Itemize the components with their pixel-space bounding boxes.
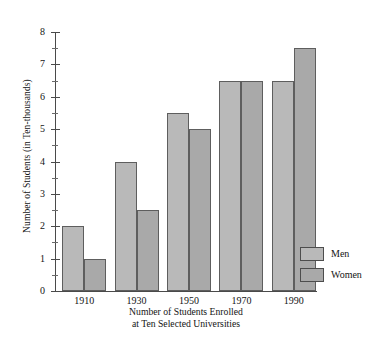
bar-women-1970 (241, 81, 263, 291)
x-axis-title: Number of Students Enrolled at Ten Selec… (55, 306, 317, 330)
y-tick-label: 5 (40, 124, 45, 134)
y-tick-minor (52, 178, 58, 179)
y-tick-major: 2 (51, 226, 60, 227)
legend-label: Women (331, 269, 362, 280)
x-tick-label: 1910 (74, 295, 94, 306)
y-tick-label: 3 (40, 189, 45, 199)
bar-women-1930 (137, 210, 159, 291)
y-tick-label: 2 (40, 221, 45, 231)
y-tick-minor (52, 48, 58, 49)
x-axis-title-line-2: at Ten Selected Universities (55, 318, 317, 330)
y-tick-major: 7 (51, 64, 60, 65)
y-tick-major: 5 (51, 129, 60, 130)
y-tick-label: 8 (40, 27, 45, 37)
x-tick-label: 1970 (231, 295, 251, 306)
x-tick-label: 1930 (127, 295, 147, 306)
bar-women-1950 (189, 129, 211, 291)
y-tick-label: 6 (40, 92, 45, 102)
bar-men-1970 (219, 81, 241, 291)
men-swatch (300, 247, 324, 261)
bar-chart-figure: Number of Students (in Ten-thousands) 01… (0, 0, 375, 350)
women-swatch (300, 268, 324, 282)
y-tick-minor (52, 81, 58, 82)
legend-item-men: Men (300, 243, 362, 264)
legend-label: Men (331, 248, 349, 259)
y-tick-major: 3 (51, 194, 60, 195)
x-tick-label: 1990 (284, 295, 304, 306)
bar-women-1910 (84, 259, 106, 291)
y-tick-minor (52, 210, 58, 211)
bar-men-1990 (272, 81, 294, 291)
x-tick-label: 1950 (179, 295, 199, 306)
bar-men-1930 (115, 162, 137, 292)
y-tick-minor (52, 242, 58, 243)
y-tick-major: 0 (51, 291, 60, 292)
y-tick-label: 1 (40, 254, 45, 264)
y-tick-major: 8 (51, 32, 60, 33)
y-axis-title: Number of Students (in Ten-thousands) (22, 56, 32, 256)
bar-men-1910 (62, 226, 84, 291)
y-tick-label: 4 (40, 157, 45, 167)
x-axis-line (55, 291, 317, 292)
y-tick-major: 4 (51, 162, 60, 163)
y-tick-major: 6 (51, 97, 60, 98)
y-tick-label: 7 (40, 59, 45, 69)
bar-men-1950 (167, 113, 189, 291)
x-axis-title-line-1: Number of Students Enrolled (55, 306, 317, 318)
y-tick-minor (52, 113, 58, 114)
y-tick-minor (52, 145, 58, 146)
y-tick-label: 0 (40, 286, 45, 296)
chart-legend: MenWomen (300, 243, 362, 285)
y-tick-minor (52, 275, 58, 276)
plot-area: 012345678 19101930195019701990 (55, 32, 317, 291)
y-tick-major: 1 (51, 259, 60, 260)
legend-item-women: Women (300, 264, 362, 285)
